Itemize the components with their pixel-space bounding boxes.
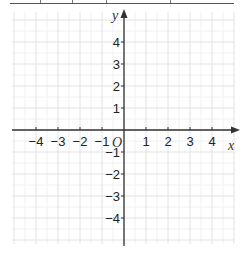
x-tick-label: −4 — [29, 134, 44, 149]
y-tick-label: −4 — [105, 211, 120, 226]
y-axis-arrow-icon — [121, 9, 128, 18]
y-tick-label: 2 — [113, 79, 120, 94]
coordinate-plane: −4−3−2−11234 4321−1−2−3−4 x y O — [0, 0, 244, 253]
x-tick-label: 3 — [186, 134, 193, 149]
y-axis-label: y — [110, 8, 119, 23]
minor-grid — [12, 12, 234, 244]
x-tick-label: −2 — [73, 134, 88, 149]
x-tick-label: 1 — [142, 134, 149, 149]
x-tick-label: 4 — [208, 134, 215, 149]
y-tick-label: 4 — [113, 35, 120, 50]
y-tick-label: 1 — [113, 101, 120, 116]
origin-label: O — [112, 135, 122, 150]
x-axis-arrow-icon — [231, 127, 240, 134]
x-tick-label: 2 — [164, 134, 171, 149]
x-tick-label: −3 — [51, 134, 66, 149]
x-axis-label: x — [227, 138, 235, 153]
y-tick-label: −2 — [105, 167, 120, 182]
y-tick-label: −3 — [105, 189, 120, 204]
y-tick-label: 3 — [113, 57, 120, 72]
